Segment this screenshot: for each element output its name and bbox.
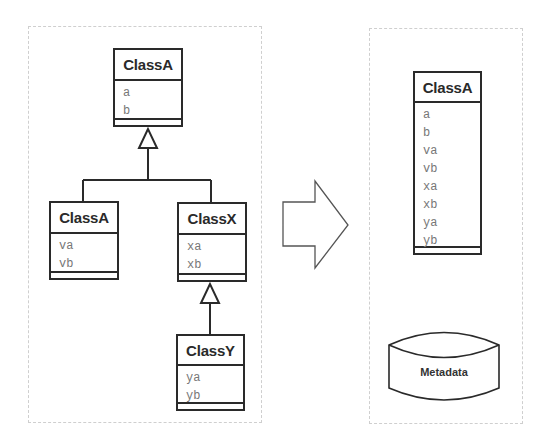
attribute: xb <box>187 256 245 274</box>
class-box-merged-classa[interactable]: ClassA a b va vb xa xb ya yb <box>413 71 482 255</box>
inheritance-triangle-icon <box>201 284 219 303</box>
class-attributes: va vb <box>51 234 117 273</box>
class-attributes: xa xb <box>179 235 245 275</box>
metadata-label: Metadata <box>389 366 499 378</box>
attribute: a <box>423 106 480 124</box>
attribute: vb <box>423 160 480 178</box>
attribute: xa <box>187 238 245 256</box>
class-name: ClassA <box>51 203 117 234</box>
inheritance-triangle-icon <box>139 129 157 148</box>
inheritance-connector-base <box>83 148 211 202</box>
class-box-classy[interactable]: ClassY ya yb <box>176 334 245 411</box>
class-attributes: ya yb <box>178 366 243 404</box>
class-attributes: a b va vb xa xb ya yb <box>415 103 480 248</box>
class-box-base-classa[interactable]: ClassA a b <box>113 48 183 127</box>
attribute: ya <box>423 214 480 232</box>
attribute: ya <box>186 369 243 387</box>
attribute: xb <box>423 196 480 214</box>
attribute: vb <box>59 255 117 273</box>
attribute: va <box>423 142 480 160</box>
class-box-classx[interactable]: ClassX xa xb <box>177 202 247 282</box>
attribute: yb <box>186 387 243 405</box>
class-box-child-classa[interactable]: ClassA va vb <box>49 201 119 280</box>
block-arrow-right-icon <box>283 181 348 268</box>
class-name: ClassX <box>179 204 245 235</box>
attribute: a <box>123 84 181 102</box>
class-name: ClassA <box>415 73 480 103</box>
attribute: xa <box>423 178 480 196</box>
class-attributes: a b <box>115 81 181 120</box>
attribute: b <box>123 102 181 120</box>
class-name: ClassY <box>178 336 243 366</box>
attribute: b <box>423 124 480 142</box>
attribute: va <box>59 237 117 255</box>
class-operations <box>51 273 117 277</box>
class-name: ClassA <box>115 50 181 81</box>
class-operations <box>115 120 181 124</box>
class-operations <box>179 275 245 279</box>
